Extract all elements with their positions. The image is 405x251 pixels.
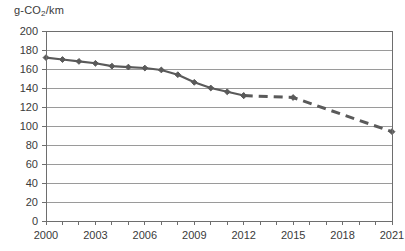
x-axis-tick-label: 2003: [83, 229, 107, 241]
y-axis-tick-label: 180: [20, 44, 38, 56]
data-point-marker: [142, 65, 148, 71]
data-series-group: [43, 55, 395, 135]
data-point-marker: [241, 93, 247, 99]
x-axis-tick-label: 2000: [34, 229, 58, 241]
data-point-marker: [158, 67, 164, 73]
x-axis-tick-label: 2018: [330, 229, 354, 241]
y-axis-tick-label: 40: [26, 177, 38, 189]
x-axis-tick-labels-group: 20002003200620092012201520182021: [34, 229, 404, 241]
y-axis-tick-label: 140: [20, 82, 38, 94]
x-axis-ticks-group: [46, 221, 392, 225]
data-point-marker: [109, 63, 115, 69]
x-axis-tick-label: 2021: [380, 229, 404, 241]
series-line-actual: [46, 58, 244, 96]
y-axis-tick-label: 60: [26, 158, 38, 170]
x-axis-tick-label: 2009: [182, 229, 206, 241]
y-axis-tick-label: 160: [20, 63, 38, 75]
chart-plot-area: 200180160140120100806040200 200020032006…: [0, 0, 405, 251]
x-axis-tick-label: 2015: [281, 229, 305, 241]
x-axis-tick-label: 2006: [133, 229, 157, 241]
data-point-marker: [76, 59, 82, 65]
data-point-marker: [224, 89, 230, 95]
y-axis-tick-label: 100: [20, 120, 38, 132]
y-axis-tick-label: 200: [20, 25, 38, 37]
y-axis-tick-labels-group: 200180160140120100806040200: [20, 25, 38, 227]
y-axis-tick-label: 0: [32, 215, 38, 227]
data-point-marker: [60, 57, 66, 63]
x-axis-tick-label: 2012: [231, 229, 255, 241]
emissions-line-chart: g-CO2/km 200180160140120100806040200 200…: [0, 0, 405, 251]
data-point-marker: [208, 85, 214, 91]
gridlines-group: [42, 31, 392, 221]
data-point-marker: [93, 60, 99, 66]
y-axis-tick-label: 20: [26, 196, 38, 208]
y-axis-tick-label: 120: [20, 101, 38, 113]
y-axis-tick-label: 80: [26, 139, 38, 151]
